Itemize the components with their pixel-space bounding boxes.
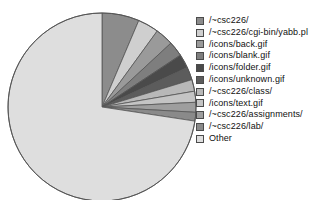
legend-item-label: /~csc226/class/ [209,86,272,98]
legend-item[interactable]: /icons/back.gif [196,39,335,51]
legend-color-swatch [196,99,204,107]
legend-color-swatch [196,123,204,131]
legend-color-swatch [196,135,204,143]
legend-item-label: /icons/unknown.gif [209,74,285,86]
legend-item-label: /~csc226/cgi-bin/yabb.pl [209,27,308,39]
legend-item[interactable]: /~csc226/class/ [196,86,335,98]
legend-item[interactable]: Other [196,133,335,145]
legend-color-swatch [196,76,204,84]
legend-item-label: /~csc226/assignments/ [209,109,303,121]
legend-color-swatch [196,88,204,96]
legend-item-label: /~csc226/ [209,15,249,27]
chart-legend: /~csc226//~csc226/cgi-bin/yabb.pl/icons/… [196,15,335,145]
legend-color-swatch [196,17,204,25]
legend-item[interactable]: /icons/folder.gif [196,62,335,74]
legend-item-label: Other [209,133,232,145]
legend-item[interactable]: /~csc226/cgi-bin/yabb.pl [196,27,335,39]
legend-item[interactable]: /icons/text.gif [196,98,335,110]
legend-item-label: /icons/blank.gif [209,50,270,62]
legend-color-swatch [196,29,204,37]
legend-item[interactable]: /~csc226/ [196,15,335,27]
legend-color-swatch [196,40,204,48]
legend-item[interactable]: /~csc226/lab/ [196,121,335,133]
legend-item[interactable]: /~csc226/assignments/ [196,109,335,121]
legend-item-label: /icons/back.gif [209,39,267,51]
legend-item-label: /icons/folder.gif [209,62,271,74]
pie-slice-group [8,13,196,200]
legend-color-swatch [196,64,204,72]
legend-color-swatch [196,52,204,60]
legend-color-swatch [196,111,204,119]
legend-item[interactable]: /icons/unknown.gif [196,74,335,86]
pie-chart-plot-area [0,0,200,200]
legend-item-label: /icons/text.gif [209,98,263,110]
pie-chart-figure: /~csc226//~csc226/cgi-bin/yabb.pl/icons/… [0,0,335,200]
legend-item[interactable]: /icons/blank.gif [196,50,335,62]
pie-chart-svg [0,0,200,200]
legend-item-label: /~csc226/lab/ [209,121,263,133]
